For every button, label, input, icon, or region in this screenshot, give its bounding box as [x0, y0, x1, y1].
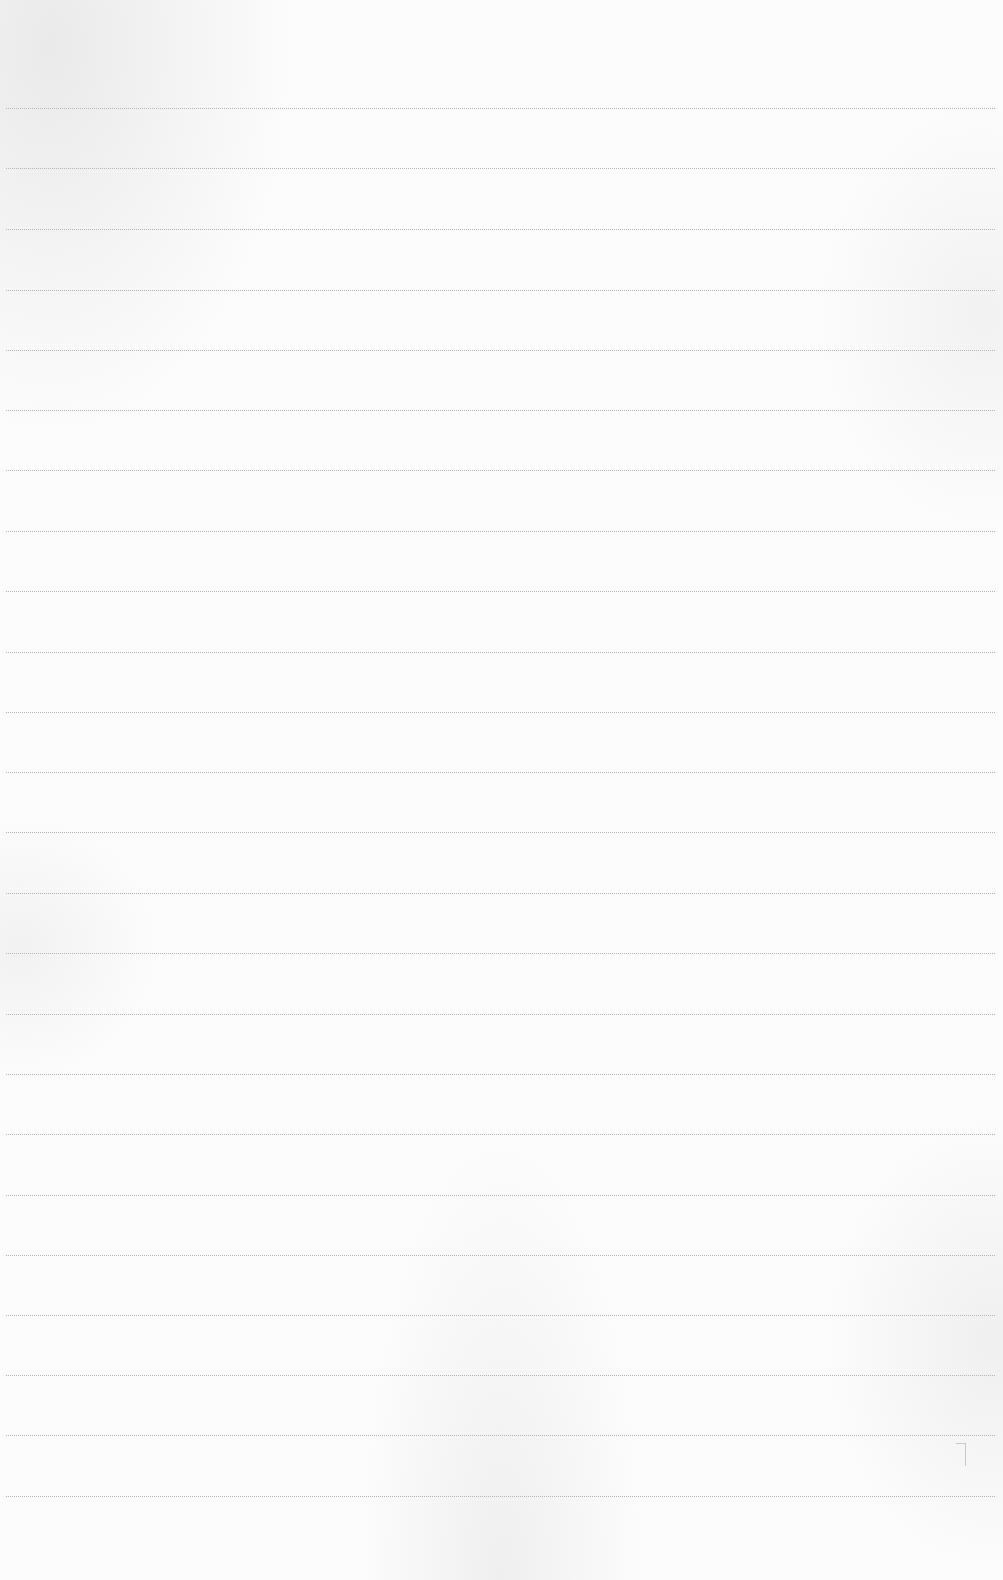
ruled-line [6, 1134, 995, 1135]
ruled-line [6, 832, 995, 833]
lined-paper-sheet [0, 0, 1003, 1580]
ruled-line [6, 350, 995, 351]
ruled-line [6, 229, 995, 230]
pencil-mark [956, 1443, 966, 1466]
ruled-line [6, 772, 995, 773]
ruled-line [6, 1195, 995, 1196]
ruled-line [6, 470, 995, 471]
ruled-line [6, 652, 995, 653]
ruled-line [6, 893, 995, 894]
ruled-line [6, 1435, 995, 1436]
ruled-line [6, 1014, 995, 1015]
ruled-line [6, 712, 995, 713]
ruled-line [6, 591, 995, 592]
ruled-line [6, 1074, 995, 1075]
ruled-line [6, 108, 995, 109]
ruled-line [6, 290, 995, 291]
ruled-line [6, 1315, 995, 1316]
ruled-line [6, 953, 995, 954]
ruled-line [6, 1496, 995, 1497]
ruled-line [6, 1255, 995, 1256]
ruled-line [6, 410, 995, 411]
ruled-line [6, 531, 995, 532]
ruled-line [6, 168, 995, 169]
ruled-line [6, 1375, 995, 1376]
